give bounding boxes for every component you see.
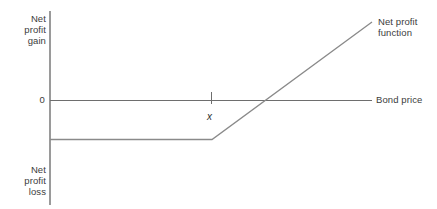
- chart-plot-area: [0, 0, 437, 209]
- y-axis-loss-label: Net profit loss: [24, 164, 46, 198]
- zero-tick-label: 0: [31, 94, 45, 105]
- net-profit-function-callout: Net profit function: [378, 16, 418, 38]
- y-axis-gain-label: Net profit gain: [24, 13, 46, 47]
- net-profit-chart: Net profit gain Net profit loss 0 x Net …: [0, 0, 437, 209]
- strike-price-label: x: [207, 111, 212, 122]
- bond-price-axis-label: Bond price: [376, 94, 422, 105]
